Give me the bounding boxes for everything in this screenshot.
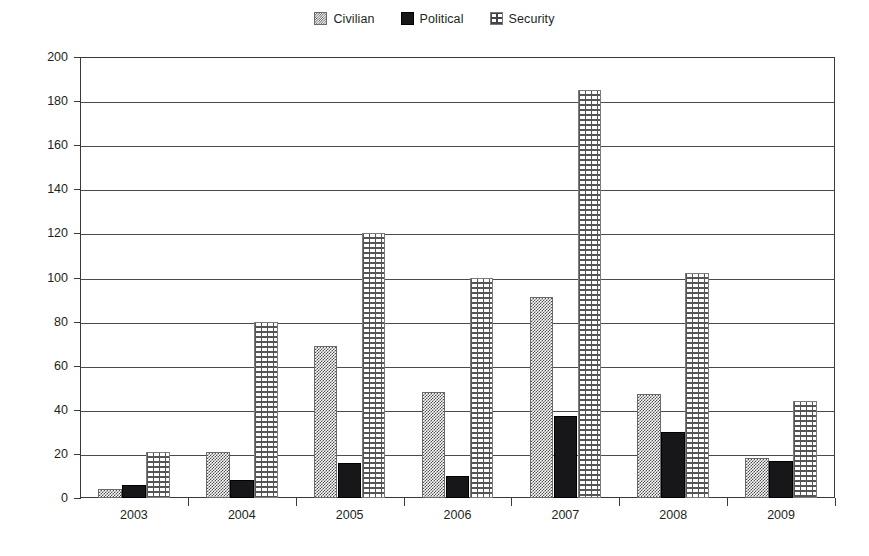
y-axis-tick-label: 140 — [47, 183, 68, 195]
y-axis-tick-label: 0 — [61, 492, 68, 504]
legend-label: Security — [509, 13, 555, 25]
bar-series-container — [80, 57, 835, 498]
legend-entry-political[interactable]: Political — [401, 12, 464, 25]
y-axis-tick-mark — [74, 454, 81, 455]
bar-security-2008[interactable] — [685, 273, 709, 498]
x-axis-tick-mark — [727, 498, 728, 506]
x-axis-tick-label: 2007 — [551, 508, 579, 522]
y-axis-tick-mark — [74, 410, 81, 411]
y-axis-tick-label: 20 — [54, 448, 68, 460]
legend-label: Political — [420, 13, 464, 25]
bar-civilian-2007[interactable] — [530, 297, 554, 498]
bar-political-2008[interactable] — [661, 432, 685, 498]
y-axis-tick-label: 80 — [54, 316, 68, 328]
legend-entry-civilian[interactable]: Civilian — [314, 12, 374, 25]
x-axis-tick-label: 2008 — [659, 508, 687, 522]
bar-political-2009[interactable] — [769, 461, 793, 498]
y-axis-tick-mark — [74, 189, 81, 190]
x-axis-tick-mark — [511, 498, 512, 506]
y-axis-tick-mark — [74, 57, 81, 58]
x-axis-tick-mark — [835, 498, 836, 506]
chart-legend: CivilianPoliticalSecurity — [0, 12, 869, 25]
bar-political-2007[interactable] — [554, 416, 578, 498]
bar-security-2005[interactable] — [362, 233, 386, 498]
x-axis-tick-label: 2005 — [336, 508, 364, 522]
y-axis-tick-mark — [74, 366, 81, 367]
bar-civilian-2006[interactable] — [422, 392, 446, 498]
bar-political-2004[interactable] — [230, 480, 254, 498]
x-axis-tick-label: 2006 — [444, 508, 472, 522]
y-axis-tick-label: 60 — [54, 360, 68, 372]
bar-civilian-2004[interactable] — [206, 452, 230, 498]
y-axis-tick-mark — [74, 322, 81, 323]
bar-security-2006[interactable] — [470, 278, 494, 499]
y-axis-tick-mark — [74, 498, 81, 499]
bar-political-2006[interactable] — [446, 476, 470, 498]
y-axis-tick-mark — [74, 101, 81, 102]
bar-political-2003[interactable] — [122, 485, 146, 498]
y-axis-labels: 020406080100120140160180200 — [20, 57, 68, 498]
x-axis-tick-mark — [404, 498, 405, 506]
x-axis-tick-label: 2004 — [228, 508, 256, 522]
bar-security-2007[interactable] — [578, 90, 602, 498]
checker-swatch-icon — [314, 12, 327, 25]
bar-political-2005[interactable] — [338, 463, 362, 498]
y-axis-tick-label: 100 — [47, 272, 68, 284]
legend-entry-security[interactable]: Security — [490, 12, 555, 25]
y-axis-tick-label: 160 — [47, 139, 68, 151]
brick-swatch-icon — [490, 12, 503, 25]
x-axis-labels: 2003200420052006200720082009 — [80, 508, 835, 532]
bar-civilian-2003[interactable] — [98, 489, 122, 498]
bar-security-2004[interactable] — [254, 322, 278, 498]
bar-civilian-2009[interactable] — [745, 458, 769, 498]
y-axis-tick-mark — [74, 145, 81, 146]
y-axis-tick-label: 200 — [47, 51, 68, 63]
solid-swatch-icon — [401, 12, 414, 25]
legend-label: Civilian — [333, 13, 374, 25]
x-axis-tick-mark — [188, 498, 189, 506]
x-axis-tick-mark — [296, 498, 297, 506]
x-axis-tick-mark — [619, 498, 620, 506]
y-axis-tick-mark — [74, 278, 81, 279]
y-axis-tick-label: 120 — [47, 227, 68, 239]
y-axis-tick-mark — [74, 233, 81, 234]
bar-civilian-2008[interactable] — [637, 394, 661, 498]
bar-civilian-2005[interactable] — [314, 346, 338, 498]
bar-chart: CivilianPoliticalSecurity 02040608010012… — [0, 0, 869, 556]
x-axis-tick-label: 2003 — [120, 508, 148, 522]
bar-security-2009[interactable] — [793, 401, 817, 498]
y-axis-tick-label: 180 — [47, 95, 68, 107]
x-axis-tick-label: 2009 — [767, 508, 795, 522]
bar-security-2003[interactable] — [146, 452, 170, 498]
y-axis-tick-label: 40 — [54, 404, 68, 416]
